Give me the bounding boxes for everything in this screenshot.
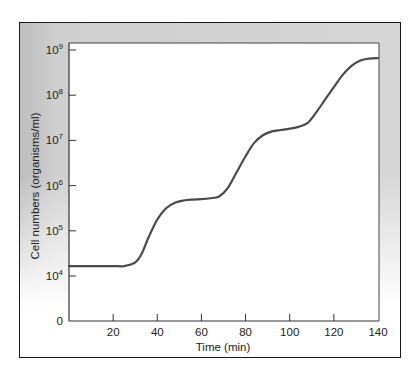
x-axis-title: Time (min) xyxy=(196,341,251,353)
x-tick-label: 60 xyxy=(195,326,208,338)
y-tick-label: 108 xyxy=(46,87,64,101)
y-tick-label: 106 xyxy=(46,178,64,192)
plot-area xyxy=(69,43,379,322)
y-axis-title: Cell numbers (organisms/ml) xyxy=(29,112,41,259)
x-tick-label: 80 xyxy=(239,326,252,338)
y-tick-label: 109 xyxy=(46,42,64,56)
x-tick-label: 140 xyxy=(368,326,387,338)
y-tick-label: 104 xyxy=(46,268,64,282)
y-tick-label: 0 xyxy=(57,315,63,327)
x-tick-label: 20 xyxy=(107,326,120,338)
x-tick-label: 120 xyxy=(324,326,343,338)
y-tick-label: 107 xyxy=(46,132,64,146)
chart: 204060801001201400104105106107108109 Tim… xyxy=(0,0,419,371)
y-tick-label: 105 xyxy=(46,223,64,237)
x-tick-label: 40 xyxy=(151,326,164,338)
x-tick-label: 100 xyxy=(280,326,299,338)
